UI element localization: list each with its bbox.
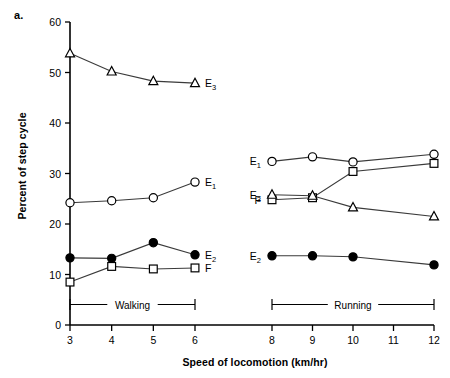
x-tick-label: 12: [428, 334, 440, 346]
y-tick-label: 10: [49, 269, 61, 281]
data-point-f: [191, 264, 199, 272]
x-tick-label: 4: [109, 334, 115, 346]
bracket-label: Walking: [115, 300, 150, 311]
data-point-f: [66, 278, 74, 286]
data-point-e2: [430, 261, 438, 269]
panel-label: a.: [14, 9, 24, 21]
data-point-e2: [308, 252, 316, 260]
data-point-e1: [191, 178, 199, 186]
data-point-f: [108, 263, 116, 271]
data-point-e2: [108, 254, 116, 262]
x-tick-label: 6: [192, 334, 198, 346]
x-tick-label: 3: [67, 334, 73, 346]
data-point-f: [349, 168, 357, 176]
y-tick-label: 0: [55, 319, 61, 331]
data-point-e2: [191, 251, 199, 259]
series-line-f: [70, 266, 195, 282]
data-point-e3: [107, 67, 116, 75]
plot-area: 0102030405060345689101112WalkingRunningE…: [0, 0, 450, 378]
x-tick-label: 9: [310, 334, 316, 346]
y-tick-label: 50: [49, 67, 61, 79]
x-tick-label: 11: [388, 334, 399, 346]
x-axis-title: Speed of locomotion (km/hr): [60, 356, 450, 368]
data-point-e1: [349, 158, 357, 166]
bracket-label: Running: [334, 300, 371, 311]
data-point-e1: [66, 199, 74, 207]
x-tick-label: 10: [347, 334, 359, 346]
data-point-e1: [430, 150, 438, 158]
data-point-e2: [66, 254, 74, 262]
series-label-e1: E1: [205, 176, 216, 191]
data-point-e2: [268, 252, 276, 260]
x-tick-label: 8: [269, 334, 275, 346]
y-tick-label: 20: [49, 218, 61, 230]
series-label-e2: E2: [250, 250, 261, 265]
y-tick-label: 40: [49, 117, 61, 129]
data-point-e1: [149, 194, 157, 202]
series-label-e1: E1: [250, 155, 261, 170]
y-axis-title: Percent of step cycle: [16, 66, 28, 266]
data-point-f: [430, 160, 438, 168]
y-tick-label: 60: [49, 16, 61, 28]
data-point-f: [149, 265, 157, 273]
series-label-e3: E3: [205, 77, 216, 92]
data-point-e1: [108, 197, 116, 205]
data-point-e1: [268, 157, 276, 165]
y-tick-label: 30: [49, 168, 61, 180]
data-point-e3: [65, 48, 74, 56]
series-line-e3: [70, 53, 195, 83]
series-label-f: F: [205, 262, 211, 274]
data-point-e3: [267, 190, 276, 198]
series-line-e1: [70, 182, 195, 203]
data-point-e2: [349, 253, 357, 261]
figure-panel: a. Percent of step cycle Speed of locomo…: [0, 0, 450, 378]
series-line-e2: [70, 243, 195, 259]
x-tick-label: 5: [150, 334, 156, 346]
data-point-e1: [308, 153, 316, 161]
data-point-e2: [149, 239, 157, 247]
